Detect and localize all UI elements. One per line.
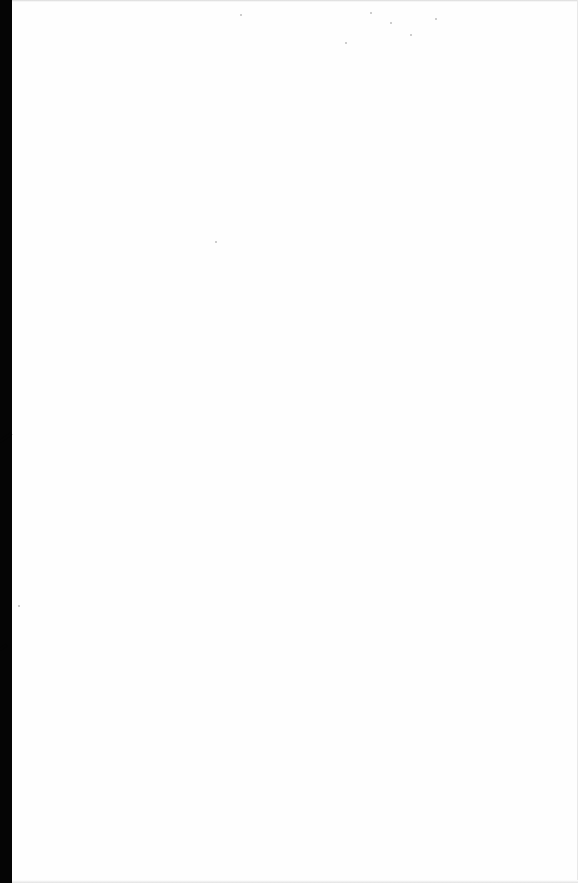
scan-speck — [240, 14, 242, 16]
scan-speck — [215, 241, 217, 243]
page-top-shadow — [12, 0, 578, 2]
scan-speck — [18, 605, 20, 607]
scanned-blank-page — [0, 0, 578, 883]
scan-speck — [410, 34, 412, 36]
scan-speck — [390, 22, 392, 24]
scan-speck — [370, 12, 372, 14]
scan-speck — [435, 18, 437, 20]
scan-speck — [345, 42, 347, 44]
